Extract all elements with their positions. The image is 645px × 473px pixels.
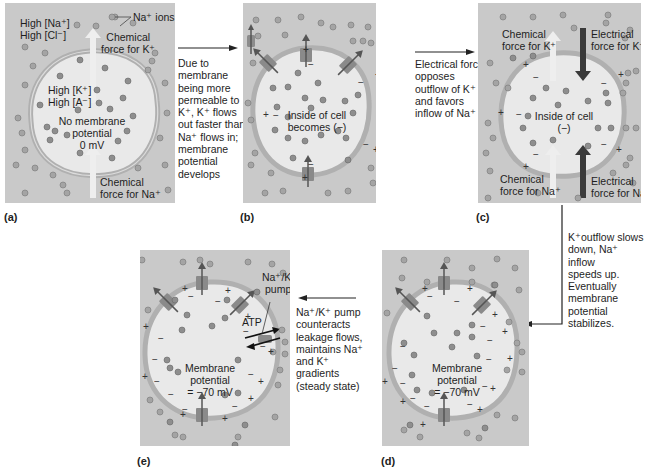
svg-text:−: − (533, 72, 539, 83)
svg-text:+: + (222, 413, 228, 424)
inside-concentration-k: High [K⁺] (48, 84, 91, 96)
inside-cell-label: Inside of cellbecomes (−) (277, 109, 357, 133)
elec-force-na-label: Electricalforce for Na⁺ (591, 175, 641, 199)
panel-a: High [Na⁺] High [Cl⁻] Na⁺ ions Chemicalf… (5, 3, 175, 203)
svg-text:+: + (523, 59, 529, 70)
svg-text:−: − (308, 59, 314, 70)
panel-label-b: (b) (240, 211, 254, 223)
svg-text:−: − (232, 401, 238, 412)
svg-text:+: + (467, 283, 473, 294)
svg-text:+: + (142, 371, 148, 382)
svg-text:+: + (618, 69, 624, 80)
svg-text:−: − (487, 335, 493, 346)
svg-text:+: + (373, 144, 376, 155)
inside-concentration-a: High [A⁻] (48, 96, 91, 108)
panel-c: +++++ −−−−− Chemicalforce for K⁺ Electri… (478, 3, 641, 203)
svg-text:−: − (601, 139, 607, 150)
panel-b: +++++ −−−−− Inside of cellbecomes (−) (243, 3, 376, 203)
svg-text:−: − (424, 401, 430, 412)
svg-text:−: − (358, 77, 364, 88)
panel-label-e: (e) (137, 455, 150, 467)
svg-text:+: + (225, 285, 231, 296)
svg-text:+: + (375, 69, 376, 80)
svg-text:−: − (392, 363, 398, 374)
inside-cell-label: Inside of cell(−) (524, 110, 604, 134)
membrane-potential-label: Membranepotential= −70 mV (417, 362, 497, 398)
svg-text:+: + (502, 326, 508, 337)
svg-text:−: − (533, 149, 539, 160)
svg-text:−: − (467, 399, 473, 410)
elec-force-k-label: Electricalforce for K⁺ (591, 28, 641, 52)
chem-force-k-label: Chemicalforce for K⁺ (502, 28, 556, 52)
svg-text:+: + (268, 346, 274, 357)
svg-text:−: − (260, 341, 266, 352)
svg-text:−: − (410, 393, 416, 404)
caption-c-to-d: K⁺outflow slowsdown, Na⁺ inflowspeeds up… (568, 231, 645, 329)
svg-text:−: − (188, 291, 194, 302)
svg-text:+: + (303, 44, 309, 55)
caption-b-to-c: Electrical forceopposesoutflow of K⁺and … (415, 58, 484, 119)
atp-label: ATP (242, 316, 262, 328)
panel-label-c: (c) (476, 211, 489, 223)
svg-text:+: + (507, 353, 513, 364)
cell-b-graphic: +++++ −−−−− (243, 3, 376, 203)
svg-text:+: + (302, 172, 308, 183)
svg-text:+: + (258, 376, 264, 387)
chem-force-na-label: Chemicalforce for Na⁺ (100, 176, 161, 200)
panel-label-a: (a) (4, 211, 17, 223)
svg-text:−: − (400, 378, 406, 389)
svg-text:+: + (616, 144, 622, 155)
na-ions-callout: Na⁺ ions (133, 11, 175, 23)
membrane-potential-label: No membranepotential0 mV (57, 115, 127, 151)
svg-text:−: − (454, 296, 460, 307)
svg-text:−: − (182, 404, 188, 415)
arrow-a-to-b (178, 44, 238, 52)
panel-label-d: (d) (381, 455, 395, 467)
na-k-pump-label: Na⁺/K⁺pump (262, 271, 290, 295)
panel-d: ++++++++++ −−−−−−−−−−−− Membranepotentia… (382, 250, 529, 446)
caption-d-to-e: Na⁺/K⁺ pumpcounteractsleakage flows,main… (296, 306, 363, 392)
chem-force-k-label: Chemicalforce for K⁺ (101, 31, 155, 55)
svg-text:+: + (498, 107, 504, 118)
caption-a-to-b: Due tomembranebeing morepermeable toK⁺, … (178, 57, 245, 180)
svg-text:+: + (420, 419, 426, 430)
svg-text:−: − (480, 321, 486, 332)
svg-text:−: − (601, 78, 607, 89)
svg-text:+: + (477, 404, 483, 415)
svg-text:−: − (427, 291, 433, 302)
cell-d-graphic: ++++++++++ −−−−−−−−−−−− (382, 250, 529, 446)
svg-text:−: − (363, 139, 369, 150)
svg-text:+: + (523, 161, 529, 172)
svg-text:−: − (152, 354, 158, 365)
arrow-d-to-e (298, 294, 358, 302)
svg-text:+: + (143, 321, 149, 332)
svg-text:−: − (158, 333, 164, 344)
svg-text:+: + (263, 109, 269, 120)
svg-text:+: + (382, 376, 388, 387)
outside-concentration-cl: High [Cl⁻] (20, 29, 66, 41)
membrane-potential-label: Membranepotential= −70 mV (170, 362, 250, 398)
outside-concentration-na: High [Na⁺] (20, 17, 70, 29)
svg-text:−: − (154, 376, 160, 387)
svg-text:−: − (400, 341, 406, 352)
svg-text:−: − (308, 159, 314, 170)
svg-text:−: − (516, 109, 522, 120)
svg-text:−: − (215, 296, 221, 307)
chem-force-na-label: Chemicalforce for Na⁺ (500, 173, 561, 197)
svg-text:+: + (492, 309, 498, 320)
panel-e: ++++++++++ −−−−−−−−−−− Na⁺/K⁺pump ATP Me… (140, 250, 290, 446)
svg-text:+: + (400, 396, 406, 407)
arrow-b-to-c (415, 48, 475, 56)
